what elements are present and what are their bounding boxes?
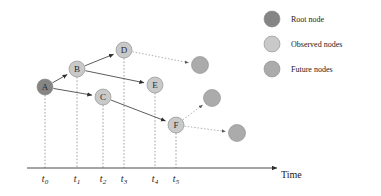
tick-label-t0: t0 xyxy=(42,173,49,186)
droplines-group xyxy=(45,58,176,168)
edge-a-to-c xyxy=(53,88,92,95)
node-fut2[interactable] xyxy=(204,90,221,107)
legend-item-root: Root node xyxy=(264,11,325,27)
axis-group: Time xyxy=(27,168,302,180)
legend-group: Root nodeObserved nodesFuture nodes xyxy=(264,11,342,77)
legend-label-future: Future nodes xyxy=(291,65,333,74)
node-c[interactable]: C xyxy=(95,89,111,105)
edge-a-to-b xyxy=(52,74,67,82)
nodes-group: ABCDEF xyxy=(37,42,246,142)
edge-b-to-d xyxy=(85,54,114,66)
tick-labels-group: t0t1t2t3t4t5 xyxy=(42,173,180,186)
tick-label-t2: t2 xyxy=(100,173,107,186)
node-e[interactable]: E xyxy=(147,77,163,93)
tick-label-t3: t3 xyxy=(121,173,128,186)
legend-label-root: Root node xyxy=(291,15,325,24)
legend-item-observed: Observed nodes xyxy=(264,36,342,52)
tick-label-t4: t4 xyxy=(152,173,159,186)
legend-label-observed: Observed nodes xyxy=(291,40,342,49)
legend-swatch-root xyxy=(264,11,280,27)
edge-b-to-e xyxy=(85,71,144,83)
axis-title-time: Time xyxy=(281,169,302,180)
legend-item-future: Future nodes xyxy=(264,61,333,77)
figure-canvas: Time ABCDEF t0t1t2t3t4t5 Root nodeObserv… xyxy=(0,0,381,196)
legend-swatch-observed xyxy=(264,36,280,52)
temporal-dag-figure: Time ABCDEF t0t1t2t3t4t5 Root nodeObserv… xyxy=(0,0,381,196)
node-fut1[interactable] xyxy=(192,57,209,74)
node-a[interactable]: A xyxy=(37,79,53,95)
time-axis: Time xyxy=(27,168,302,180)
edge-f-to-fut2 xyxy=(183,105,203,120)
edge-d-to-fut1 xyxy=(132,52,188,63)
node-d[interactable]: D xyxy=(116,42,132,58)
node-f[interactable]: F xyxy=(168,117,184,133)
tick-label-t1: t1 xyxy=(74,173,80,186)
legend-swatch-future xyxy=(264,61,280,77)
node-fut3[interactable] xyxy=(229,125,246,142)
tick-label-t5: t5 xyxy=(173,173,180,186)
node-b[interactable]: B xyxy=(69,61,85,77)
edge-c-to-f xyxy=(111,100,166,121)
edge-f-to-fut3 xyxy=(184,126,225,131)
